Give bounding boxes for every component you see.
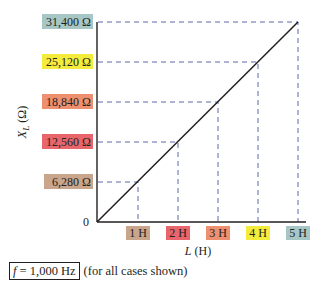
y-tick-label: 6,280 Ω xyxy=(52,175,91,189)
chart: 6,280 Ω 12,560 Ω 18,840 Ω 25,120 Ω 31,40… xyxy=(0,0,326,298)
y-tick-label: 18,840 Ω xyxy=(46,95,91,109)
origin-label: 0 xyxy=(83,215,89,229)
data-line xyxy=(97,22,298,222)
x-tick-label: 2 H xyxy=(169,226,187,240)
x-tick-label: 4 H xyxy=(249,226,267,240)
y-tick-label: 31,400 Ω xyxy=(46,15,91,29)
y-axis-title: XL (Ω) xyxy=(15,106,31,139)
x-axis-title: L (H) xyxy=(184,244,211,258)
x-tick-label: 5 H xyxy=(289,226,307,240)
y-tick-label: 12,560 Ω xyxy=(46,135,91,149)
frequency-value: = 1,000 Hz xyxy=(16,264,75,278)
x-axis-unit: (H) xyxy=(192,244,212,258)
x-tick-label: 3 H xyxy=(209,226,227,240)
y-axis-unit: (Ω) xyxy=(15,106,29,126)
x-tick-label: 1 H xyxy=(129,226,147,240)
y-tick-label: 25,120 Ω xyxy=(46,55,91,69)
frequency-caption: f = 1,000 Hz(for all cases shown) xyxy=(9,262,187,280)
caption-note: (for all cases shown) xyxy=(84,264,188,278)
frequency-box: f = 1,000 Hz xyxy=(9,262,80,280)
